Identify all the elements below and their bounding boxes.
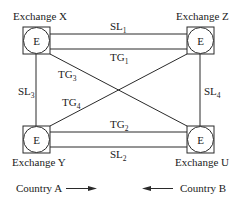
exchange-z-node: E (187, 27, 214, 54)
exchange-symbol: E (33, 35, 40, 47)
exchange-y-node: E (23, 126, 50, 153)
label-sl4: SL4 (204, 85, 221, 100)
label-sl1: SL1 (110, 20, 127, 35)
exchange-symbol: E (197, 134, 204, 146)
label-tg3: TG3 (58, 68, 77, 83)
arrow-left-icon (142, 186, 173, 191)
exchange-y-label: Exchange Y (12, 156, 66, 168)
exchange-symbol: E (33, 134, 40, 146)
country-a-label: Country A (16, 182, 62, 194)
exchange-x-node: E (23, 27, 50, 54)
label-tg1: TG1 (110, 51, 129, 66)
arrow-right-icon (66, 186, 97, 191)
label-tg2: TG2 (110, 118, 129, 133)
label-sl3: SL3 (18, 85, 35, 100)
exchange-network-diagram: E Exchange X E Exchange Z E Exchange Y E… (0, 0, 236, 206)
exchange-u-node: E (187, 126, 214, 153)
country-b-label: Country B (180, 182, 226, 194)
exchange-x-label: Exchange X (13, 10, 67, 22)
exchange-symbol: E (197, 35, 204, 47)
exchange-u-label: Exchange U (175, 156, 229, 168)
exchange-z-label: Exchange Z (176, 10, 229, 22)
label-tg4: TG4 (62, 96, 81, 111)
label-sl2: SL2 (110, 148, 127, 163)
